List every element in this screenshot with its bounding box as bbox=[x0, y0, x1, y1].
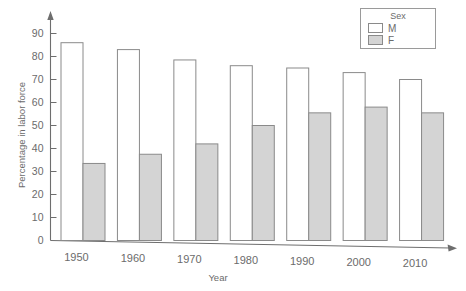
bars-layer bbox=[61, 43, 444, 241]
x-axis-title: Year bbox=[208, 272, 227, 283]
legend-label-female: F bbox=[388, 35, 394, 46]
labor-force-bar-chart: 0102030405060708090 19501960197019801990… bbox=[0, 0, 466, 291]
y-tick-label: 50 bbox=[32, 119, 44, 131]
bar-male bbox=[230, 66, 252, 241]
bar-male bbox=[287, 68, 309, 241]
y-axis-arrowhead bbox=[47, 11, 53, 20]
y-axis-ticks: 0102030405060708090 bbox=[32, 27, 57, 246]
bar-male bbox=[117, 50, 139, 241]
bar-male bbox=[61, 43, 83, 241]
bar-female bbox=[365, 107, 387, 240]
legend-label-male: M bbox=[388, 23, 396, 34]
legend-swatch-female bbox=[369, 36, 383, 45]
chart-canvas: 0102030405060708090 19501960197019801990… bbox=[0, 0, 466, 291]
legend-swatch-male bbox=[369, 24, 383, 33]
legend: Sex M F bbox=[361, 9, 436, 49]
x-tick-label: 1980 bbox=[234, 254, 258, 266]
y-tick-label: 90 bbox=[32, 27, 44, 39]
x-tick-label: 1970 bbox=[177, 253, 201, 265]
bar-female bbox=[83, 163, 105, 240]
y-tick-label: 30 bbox=[32, 165, 44, 177]
y-tick-label: 60 bbox=[32, 96, 44, 108]
x-axis-arrowhead bbox=[448, 245, 457, 252]
x-axis-line bbox=[51, 241, 451, 249]
bar-female bbox=[309, 113, 331, 241]
x-tick-label: 1990 bbox=[290, 255, 314, 267]
bar-female bbox=[422, 113, 444, 241]
bar-female bbox=[139, 154, 161, 240]
bar-male bbox=[174, 60, 196, 241]
y-tick-label: 10 bbox=[32, 211, 44, 223]
y-tick-label: 70 bbox=[32, 73, 44, 85]
y-tick-label: 20 bbox=[32, 188, 44, 200]
bar-male bbox=[343, 73, 365, 241]
x-tick-label: 2000 bbox=[346, 256, 370, 268]
legend-title: Sex bbox=[390, 11, 406, 21]
x-tick-label: 2010 bbox=[403, 257, 427, 269]
y-tick-label: 0 bbox=[38, 234, 44, 246]
y-tick-label: 80 bbox=[32, 50, 44, 62]
y-tick-label: 40 bbox=[32, 142, 44, 154]
x-tick-label: 1960 bbox=[121, 252, 145, 264]
y-axis-title: Percentage in labor force bbox=[16, 82, 27, 188]
x-axis bbox=[51, 241, 458, 252]
bar-male bbox=[400, 80, 422, 241]
bar-female bbox=[196, 144, 218, 241]
x-tick-label: 1950 bbox=[64, 251, 88, 263]
x-axis-ticks: 1950196019701980199020002010 bbox=[64, 251, 427, 269]
bar-female bbox=[252, 126, 274, 241]
